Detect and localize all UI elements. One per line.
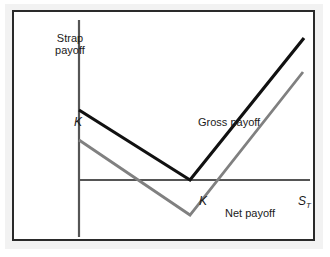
x-axis-label-subscript: T: [306, 201, 311, 210]
y-axis-label: Strap payoff: [50, 32, 90, 56]
gross-payoff-line: [79, 38, 304, 180]
y-axis-label-line1: Strap: [50, 32, 90, 44]
x-axis-label-symbol: S: [298, 194, 306, 208]
y-axis-label-line2: payoff: [50, 44, 90, 56]
net-payoff-annotation: Net payoff: [225, 207, 275, 219]
x-axis-label: ST: [298, 195, 311, 212]
figure-frame: Strap payoff K K ST Gross payoff Net pay…: [12, 10, 315, 241]
net-payoff-line: [79, 72, 303, 215]
gross-payoff-annotation: Gross payoff: [198, 116, 260, 128]
x-axis-tick-label-k: K: [199, 195, 207, 207]
y-axis-tick-label-k: K: [74, 116, 82, 128]
payoff-diagram-figure: Strap payoff K K ST Gross payoff Net pay…: [0, 0, 330, 257]
